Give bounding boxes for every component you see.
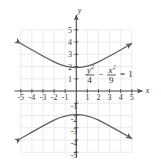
equation-left-denominator: 4 [87, 75, 92, 85]
equation-operator: − [98, 69, 103, 79]
equation-right-numerator-exponent: 2 [113, 64, 116, 70]
y-tick-label: 5 [68, 26, 72, 35]
x-tick-label: -1 [62, 93, 69, 102]
x-tick-label: -3 [40, 93, 47, 102]
x-tick-label: 3 [108, 93, 112, 102]
axis-lines [15, 15, 143, 158]
equation-annotation: y 2 4 − x 2 9 = 1 [86, 64, 133, 85]
hyperbola-graph-figure: -5 -4 -3 -2 -1 1 2 3 4 5 5 4 3 2 1 -1 -2… [0, 0, 161, 162]
y-tick-label: -2 [71, 115, 78, 124]
y-tick-label: 3 [68, 50, 72, 59]
equation-right-denominator: 9 [109, 75, 114, 85]
equation-equals-sign: = [120, 69, 125, 79]
x-axis-label: x [145, 86, 150, 95]
y-tick-label: -5 [71, 151, 78, 160]
y-axis-label: y [77, 6, 82, 15]
coordinate-plane-svg: -5 -4 -3 -2 -1 1 2 3 4 5 5 4 3 2 1 -1 -2… [0, 0, 161, 162]
y-tick-label: 1 [68, 75, 72, 84]
equation-left-numerator-exponent: 2 [91, 64, 94, 70]
x-axis-tick-labels: -5 -4 -3 -2 -1 1 2 3 4 5 [17, 93, 133, 102]
x-tick-label: 2 [97, 93, 101, 102]
y-tick-label: 4 [68, 38, 72, 47]
x-tick-label: 1 [85, 93, 89, 102]
y-tick-label: -1 [71, 102, 78, 111]
x-tick-label: 4 [119, 93, 123, 102]
equation-right-numerator-variable: x [108, 65, 113, 75]
x-tick-label: -4 [29, 93, 36, 102]
x-tick-label: 5 [130, 93, 134, 102]
y-tick-label: -3 [71, 127, 78, 136]
equation-right-hand-side: 1 [128, 69, 133, 79]
y-tick-label: -4 [71, 139, 78, 148]
x-tick-label: -2 [51, 93, 58, 102]
x-tick-label: -5 [17, 93, 24, 102]
